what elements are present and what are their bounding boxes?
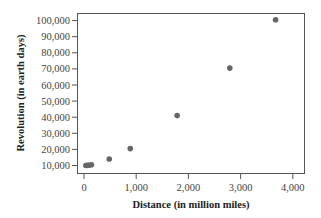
x-tick-label: 0 [81,182,86,193]
y-tick-label: 80,000 [41,47,70,58]
data-point [227,65,233,71]
y-tick-label: 20,000 [41,144,70,155]
x-axis: 01,0002,0003,0004,000 [81,174,304,194]
data-point [174,113,180,119]
x-axis-title: Distance (in million miles) [133,199,250,211]
data-points [83,17,278,168]
data-point [273,17,279,23]
scatter-chart: 10,00020,00030,00040,00050,00060,00070,0… [0,0,321,218]
y-tick-label: 50,000 [41,96,70,107]
y-axis-title: Revolution (in earth days) [15,34,27,151]
data-point [106,156,112,162]
x-tick-label: 4,000 [281,182,305,193]
plot-frame [78,14,305,174]
y-tick-label: 90,000 [41,31,70,42]
y-tick-label: 60,000 [41,80,70,91]
data-point [89,162,95,168]
y-tick-label: 70,000 [41,63,70,74]
y-tick-label: 30,000 [41,128,70,139]
x-tick-label: 1,000 [124,182,148,193]
y-tick-label: 40,000 [41,112,70,123]
x-tick-label: 2,000 [177,182,201,193]
y-tick-label: 10,000 [41,160,70,171]
y-axis: 10,00020,00030,00040,00050,00060,00070,0… [36,15,78,171]
y-tick-label: 100,000 [36,15,70,26]
x-tick-label: 3,000 [229,182,253,193]
data-point [127,146,133,152]
